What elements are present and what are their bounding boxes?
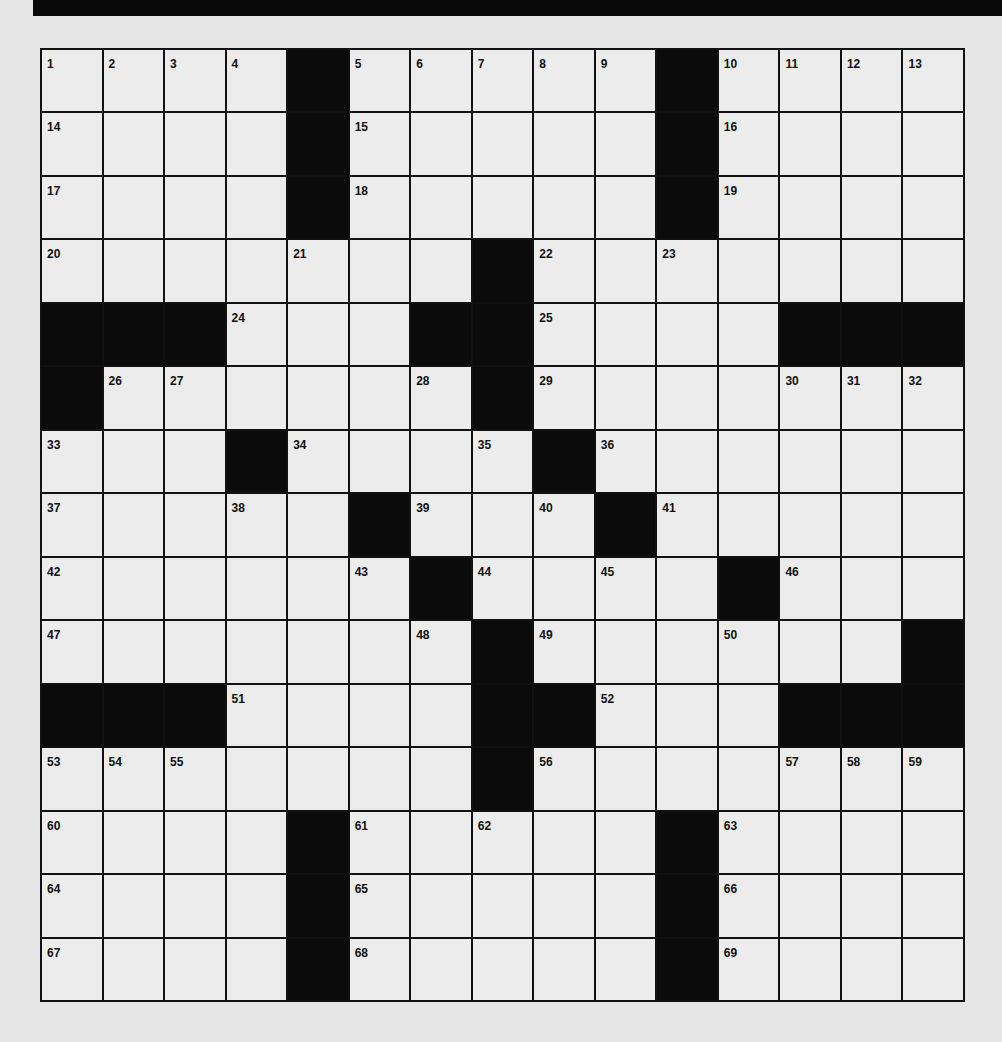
grid-cell-r6-c10[interactable] <box>657 431 717 492</box>
grid-cell-r9-c1[interactable] <box>104 621 164 682</box>
grid-cell-r13-c11[interactable]: 66 <box>719 875 779 936</box>
grid-cell-r1-c11[interactable]: 16 <box>719 113 779 174</box>
grid-cell-r5-c8[interactable]: 29 <box>534 367 594 428</box>
grid-cell-r11-c10[interactable] <box>657 748 717 809</box>
grid-cell-r8-c9[interactable]: 45 <box>596 558 656 619</box>
grid-cell-r5-c13[interactable]: 31 <box>842 367 902 428</box>
grid-cell-r7-c0[interactable]: 37 <box>42 494 102 555</box>
grid-cell-r9-c2[interactable] <box>165 621 225 682</box>
grid-cell-r9-c8[interactable]: 49 <box>534 621 594 682</box>
grid-cell-r0-c5[interactable]: 5 <box>350 50 410 111</box>
grid-cell-r5-c10[interactable] <box>657 367 717 428</box>
grid-cell-r6-c0[interactable]: 33 <box>42 431 102 492</box>
grid-cell-r1-c1[interactable] <box>104 113 164 174</box>
grid-cell-r11-c12[interactable]: 57 <box>780 748 840 809</box>
grid-cell-r2-c5[interactable]: 18 <box>350 177 410 238</box>
grid-cell-r3-c13[interactable] <box>842 240 902 301</box>
grid-cell-r10-c6[interactable] <box>411 685 471 746</box>
grid-cell-r3-c6[interactable] <box>411 240 471 301</box>
grid-cell-r7-c2[interactable] <box>165 494 225 555</box>
grid-cell-r7-c7[interactable] <box>473 494 533 555</box>
grid-cell-r2-c8[interactable] <box>534 177 594 238</box>
grid-cell-r5-c11[interactable] <box>719 367 779 428</box>
grid-cell-r3-c10[interactable]: 23 <box>657 240 717 301</box>
grid-cell-r13-c2[interactable] <box>165 875 225 936</box>
grid-cell-r10-c4[interactable] <box>288 685 348 746</box>
grid-cell-r0-c8[interactable]: 8 <box>534 50 594 111</box>
grid-cell-r5-c2[interactable]: 27 <box>165 367 225 428</box>
grid-cell-r7-c8[interactable]: 40 <box>534 494 594 555</box>
grid-cell-r0-c6[interactable]: 6 <box>411 50 471 111</box>
grid-cell-r6-c14[interactable] <box>903 431 963 492</box>
grid-cell-r3-c4[interactable]: 21 <box>288 240 348 301</box>
grid-cell-r13-c13[interactable] <box>842 875 902 936</box>
grid-cell-r12-c2[interactable] <box>165 812 225 873</box>
grid-cell-r0-c11[interactable]: 10 <box>719 50 779 111</box>
grid-cell-r12-c8[interactable] <box>534 812 594 873</box>
grid-cell-r12-c3[interactable] <box>227 812 287 873</box>
grid-cell-r12-c1[interactable] <box>104 812 164 873</box>
grid-cell-r4-c11[interactable] <box>719 304 779 365</box>
grid-cell-r9-c11[interactable]: 50 <box>719 621 779 682</box>
grid-cell-r3-c1[interactable] <box>104 240 164 301</box>
grid-cell-r7-c13[interactable] <box>842 494 902 555</box>
grid-cell-r7-c11[interactable] <box>719 494 779 555</box>
grid-cell-r4-c9[interactable] <box>596 304 656 365</box>
grid-cell-r14-c1[interactable] <box>104 939 164 1000</box>
grid-cell-r2-c2[interactable] <box>165 177 225 238</box>
grid-cell-r13-c6[interactable] <box>411 875 471 936</box>
grid-cell-r5-c12[interactable]: 30 <box>780 367 840 428</box>
grid-cell-r14-c3[interactable] <box>227 939 287 1000</box>
grid-cell-r14-c0[interactable]: 67 <box>42 939 102 1000</box>
grid-cell-r9-c13[interactable] <box>842 621 902 682</box>
grid-cell-r0-c9[interactable]: 9 <box>596 50 656 111</box>
grid-cell-r1-c7[interactable] <box>473 113 533 174</box>
grid-cell-r8-c3[interactable] <box>227 558 287 619</box>
grid-cell-r14-c12[interactable] <box>780 939 840 1000</box>
grid-cell-r8-c0[interactable]: 42 <box>42 558 102 619</box>
grid-cell-r10-c11[interactable] <box>719 685 779 746</box>
grid-cell-r14-c8[interactable] <box>534 939 594 1000</box>
grid-cell-r0-c2[interactable]: 3 <box>165 50 225 111</box>
grid-cell-r9-c10[interactable] <box>657 621 717 682</box>
grid-cell-r12-c6[interactable] <box>411 812 471 873</box>
grid-cell-r6-c12[interactable] <box>780 431 840 492</box>
grid-cell-r11-c11[interactable] <box>719 748 779 809</box>
grid-cell-r11-c9[interactable] <box>596 748 656 809</box>
grid-cell-r4-c4[interactable] <box>288 304 348 365</box>
grid-cell-r2-c11[interactable]: 19 <box>719 177 779 238</box>
grid-cell-r9-c12[interactable] <box>780 621 840 682</box>
grid-cell-r4-c8[interactable]: 25 <box>534 304 594 365</box>
grid-cell-r11-c14[interactable]: 59 <box>903 748 963 809</box>
grid-cell-r10-c5[interactable] <box>350 685 410 746</box>
grid-cell-r12-c14[interactable] <box>903 812 963 873</box>
grid-cell-r3-c11[interactable] <box>719 240 779 301</box>
grid-cell-r7-c3[interactable]: 38 <box>227 494 287 555</box>
grid-cell-r13-c8[interactable] <box>534 875 594 936</box>
grid-cell-r4-c3[interactable]: 24 <box>227 304 287 365</box>
grid-cell-r5-c3[interactable] <box>227 367 287 428</box>
grid-cell-r1-c14[interactable] <box>903 113 963 174</box>
grid-cell-r3-c0[interactable]: 20 <box>42 240 102 301</box>
grid-cell-r14-c14[interactable] <box>903 939 963 1000</box>
grid-cell-r9-c5[interactable] <box>350 621 410 682</box>
grid-cell-r12-c12[interactable] <box>780 812 840 873</box>
grid-cell-r13-c14[interactable] <box>903 875 963 936</box>
grid-cell-r2-c6[interactable] <box>411 177 471 238</box>
grid-cell-r4-c10[interactable] <box>657 304 717 365</box>
grid-cell-r11-c3[interactable] <box>227 748 287 809</box>
grid-cell-r5-c5[interactable] <box>350 367 410 428</box>
grid-cell-r7-c10[interactable]: 41 <box>657 494 717 555</box>
grid-cell-r2-c3[interactable] <box>227 177 287 238</box>
grid-cell-r3-c14[interactable] <box>903 240 963 301</box>
grid-cell-r0-c12[interactable]: 11 <box>780 50 840 111</box>
grid-cell-r4-c5[interactable] <box>350 304 410 365</box>
grid-cell-r8-c14[interactable] <box>903 558 963 619</box>
grid-cell-r9-c9[interactable] <box>596 621 656 682</box>
grid-cell-r6-c11[interactable] <box>719 431 779 492</box>
grid-cell-r13-c9[interactable] <box>596 875 656 936</box>
grid-cell-r14-c2[interactable] <box>165 939 225 1000</box>
grid-cell-r6-c9[interactable]: 36 <box>596 431 656 492</box>
grid-cell-r3-c5[interactable] <box>350 240 410 301</box>
grid-cell-r8-c1[interactable] <box>104 558 164 619</box>
